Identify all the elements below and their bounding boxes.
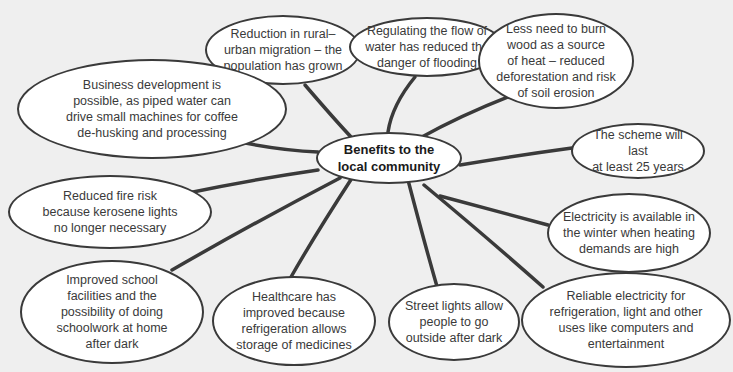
node-scheme: The scheme will last at least 25 years	[571, 123, 705, 179]
node-winter-electricity: Electricity is available in the winter w…	[547, 193, 711, 273]
node-business: Business development is possible, as pip…	[17, 59, 287, 159]
center-node: Benefits to the local community	[316, 132, 462, 184]
node-wood: Less need to burn wood as a source of he…	[478, 13, 634, 109]
node-healthcare: Healthcare has improved because refriger…	[212, 276, 376, 366]
link-reliable	[424, 185, 543, 287]
link-healthcare	[291, 178, 352, 277]
link-streetlights	[408, 180, 438, 290]
node-label: Street lights allow people to go outside…	[405, 298, 503, 346]
link-scheme	[460, 148, 572, 165]
node-label: Healthcare has improved because refriger…	[236, 289, 351, 353]
link-fire	[183, 170, 318, 194]
node-label: Reliable electricity for refrigeration, …	[550, 288, 703, 352]
node-label: Reduction in rural– urban migration – th…	[224, 26, 343, 74]
node-label: The scheme will last at least 25 years	[583, 127, 693, 175]
link-rural	[305, 85, 352, 138]
node-label: Less need to burn wood as a source of he…	[496, 21, 616, 101]
node-fire-risk: Reduced fire risk because kerosene light…	[8, 175, 212, 249]
node-street-lights: Street lights allow people to go outside…	[388, 283, 520, 361]
node-reliable-electricity: Reliable electricity for refrigeration, …	[521, 272, 731, 368]
node-label: Electricity is available in the winter w…	[563, 209, 695, 257]
node-label: Regulating the flow of water has reduced…	[365, 23, 489, 71]
node-school: Improved school facilities and the possi…	[20, 260, 204, 364]
node-label: Reduced fire risk because kerosene light…	[43, 188, 178, 236]
node-label: Business development is possible, as pip…	[66, 77, 238, 141]
node-label: Improved school facilities and the possi…	[56, 272, 167, 352]
center-label: Benefits to the local community	[338, 141, 441, 175]
link-flooding	[388, 77, 415, 132]
